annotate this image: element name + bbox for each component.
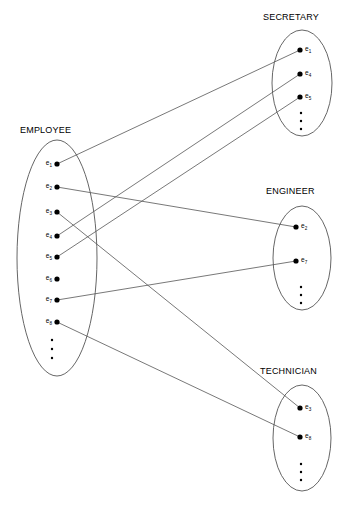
- edge-e5-secretary: [57, 97, 300, 257]
- member-dot-employee-e7: [54, 297, 59, 302]
- member-dot-employee-e5: [54, 254, 59, 259]
- member-label-engineer-n_e2: e2: [301, 222, 308, 231]
- ellipsis-dot-engineer-2: [300, 302, 302, 304]
- edge-e8-technician: [57, 322, 300, 437]
- member-dot-employee-e8: [54, 319, 59, 324]
- member-label-employee-e8: e8: [46, 317, 53, 326]
- member-label-employee-e1: e1: [46, 159, 53, 168]
- member-label-employee-e7: e7: [46, 295, 53, 304]
- set-employee: EMPLOYEEe1e2e3e4e5e6e7e8: [17, 125, 97, 376]
- member-dot-employee-e4: [54, 233, 59, 238]
- edge-e7-engineer: [57, 261, 296, 300]
- member-dot-technician-t_e8: [297, 434, 302, 439]
- member-dot-secretary-s_e4: [297, 71, 302, 76]
- ellipsis-dot-engineer-0: [300, 286, 302, 288]
- diagram-canvas: EMPLOYEEe1e2e3e4e5e6e7e8SECRETARYe1e4e5E…: [0, 0, 343, 518]
- ellipsis-dot-employee-0: [51, 339, 53, 341]
- edge-e1-secretary: [57, 50, 300, 164]
- set-title-secretary: SECRETARY: [263, 12, 319, 22]
- ellipsis-dot-employee-1: [51, 348, 53, 350]
- set-engineer: ENGINEERe2e7: [266, 186, 331, 310]
- member-label-engineer-n_e7: e7: [301, 256, 308, 265]
- member-label-secretary-s_e5: e5: [305, 92, 312, 101]
- ellipsis-dot-technician-2: [300, 479, 302, 481]
- edges-layer: [57, 50, 300, 437]
- member-dot-employee-e2: [54, 184, 59, 189]
- member-label-technician-t_e8: e8: [305, 432, 312, 441]
- set-title-employee: EMPLOYEE: [20, 125, 71, 135]
- member-dot-secretary-s_e5: [297, 94, 302, 99]
- member-label-employee-e4: e4: [46, 231, 53, 240]
- member-dot-engineer-n_e7: [293, 258, 298, 263]
- set-title-technician: TECHNICIAN: [260, 366, 317, 376]
- ellipsis-dot-secretary-0: [300, 112, 302, 114]
- set-secretary: SECRETARYe1e4e5: [263, 12, 332, 136]
- set-title-engineer: ENGINEER: [266, 186, 315, 196]
- member-dot-secretary-s_e1: [297, 47, 302, 52]
- member-dot-technician-t_e3: [297, 405, 302, 410]
- ellipsis-dot-technician-0: [300, 463, 302, 465]
- member-dot-employee-e3: [54, 209, 59, 214]
- ellipsis-dot-technician-1: [300, 471, 302, 473]
- set-outline-secretary: [272, 30, 332, 136]
- member-label-employee-e6: e6: [46, 274, 53, 283]
- member-label-employee-e3: e3: [46, 207, 53, 216]
- member-label-secretary-s_e1: e1: [305, 45, 312, 54]
- member-label-employee-e5: e5: [46, 252, 53, 261]
- ellipsis-dot-employee-2: [51, 357, 53, 359]
- ellipsis-dot-secretary-1: [300, 120, 302, 122]
- set-membership-diagram: EMPLOYEEe1e2e3e4e5e6e7e8SECRETARYe1e4e5E…: [0, 0, 343, 518]
- member-dot-employee-e1: [54, 161, 59, 166]
- member-dot-engineer-n_e2: [293, 224, 298, 229]
- ellipsis-dot-engineer-1: [300, 294, 302, 296]
- ellipsis-dot-secretary-2: [300, 128, 302, 130]
- member-label-technician-t_e3: e3: [305, 403, 312, 412]
- member-label-employee-e2: e2: [46, 182, 53, 191]
- member-label-secretary-s_e4: e4: [305, 69, 312, 78]
- edge-e4-secretary: [57, 74, 300, 236]
- member-dot-employee-e6: [54, 276, 59, 281]
